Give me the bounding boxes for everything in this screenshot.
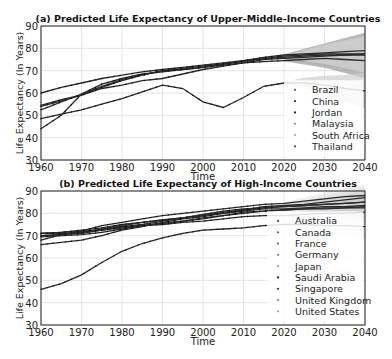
data-point	[113, 230, 114, 231]
data-point	[198, 221, 199, 222]
data-point	[138, 225, 139, 226]
data-point	[144, 80, 145, 81]
legend-marker	[277, 231, 279, 233]
x-tick-label: 1970	[69, 327, 94, 338]
data-point	[46, 238, 47, 239]
data-point	[83, 232, 84, 233]
data-point	[138, 76, 139, 77]
legend-label: Saudi Arabia	[295, 272, 355, 283]
legend-label: United Kingdom	[295, 295, 371, 306]
data-point	[162, 78, 163, 79]
data-point	[210, 65, 211, 66]
data-point	[186, 220, 187, 221]
data-point	[198, 219, 199, 220]
data-point	[174, 220, 175, 221]
data-point	[119, 85, 120, 86]
data-point	[241, 98, 242, 99]
data-point	[138, 244, 139, 245]
data-point	[235, 217, 236, 218]
data-point	[46, 232, 47, 233]
data-point	[59, 114, 60, 115]
data-point	[46, 287, 47, 288]
data-point	[235, 228, 236, 229]
data-point	[229, 228, 230, 229]
data-point	[131, 95, 132, 96]
data-point	[192, 95, 193, 96]
data-point	[204, 216, 205, 217]
data-point	[235, 101, 236, 102]
data-point	[241, 216, 242, 217]
data-point	[119, 226, 120, 227]
data-point	[271, 61, 272, 62]
data-point	[156, 70, 157, 71]
legend-label: Australia	[295, 215, 337, 226]
data-point	[229, 63, 230, 64]
data-point	[138, 72, 139, 73]
data-point	[277, 56, 278, 57]
data-point	[180, 68, 181, 69]
data-point	[52, 104, 53, 105]
data-point	[83, 239, 84, 240]
data-point	[65, 113, 66, 114]
data-point	[119, 252, 120, 253]
data-point	[253, 211, 254, 212]
legend-marker	[277, 242, 279, 244]
data-point	[144, 221, 145, 222]
data-point	[223, 228, 224, 229]
data-point	[107, 85, 108, 86]
data-point	[101, 103, 102, 104]
data-point	[247, 60, 248, 61]
data-point	[89, 269, 90, 270]
legend-marker	[277, 310, 279, 312]
data-point	[192, 67, 193, 68]
data-point	[180, 222, 181, 223]
data-point	[131, 247, 132, 248]
data-point	[59, 102, 60, 103]
data-point	[198, 99, 199, 100]
data-point	[144, 225, 145, 226]
legend-label: South Africa	[312, 130, 370, 141]
data-point	[162, 215, 163, 216]
data-point	[168, 69, 169, 70]
data-point	[150, 73, 151, 74]
data-point	[186, 212, 187, 213]
data-point	[77, 98, 78, 99]
data-point	[156, 239, 157, 240]
data-point	[150, 224, 151, 225]
y-tick-label: 70	[25, 66, 38, 77]
data-point	[131, 73, 132, 74]
data-point	[241, 206, 242, 207]
legend-label: Brazil	[312, 84, 339, 95]
data-point	[241, 61, 242, 62]
data-point	[46, 117, 47, 118]
legend-marker	[277, 220, 279, 222]
legend-marker	[294, 89, 296, 91]
data-point	[150, 70, 151, 71]
data-point	[265, 215, 266, 216]
data-point	[210, 217, 211, 218]
data-point	[71, 231, 72, 232]
data-point	[131, 225, 132, 226]
data-point	[180, 233, 181, 234]
x-tick-label: 2010	[231, 162, 256, 173]
data-point	[131, 77, 132, 78]
data-point	[210, 215, 211, 216]
data-point	[125, 84, 126, 85]
data-point	[52, 232, 53, 233]
data-point	[83, 94, 84, 95]
chart-svg: 1960197019801990200020102020203020403040…	[0, 0, 392, 359]
chart-title: (a) Predicted Life Expectancy of Upper-M…	[36, 13, 381, 24]
data-point	[265, 206, 266, 207]
data-point	[156, 216, 157, 217]
legend-label: Singapore	[295, 283, 343, 294]
data-point	[253, 205, 254, 206]
data-point	[119, 224, 120, 225]
legend: AustraliaCanadaFranceGermanyJapanSaudi A…	[267, 211, 371, 321]
legend-label: Canada	[295, 227, 331, 238]
data-point	[89, 233, 90, 234]
data-point	[131, 223, 132, 224]
data-point	[77, 96, 78, 97]
data-point	[150, 221, 151, 222]
legend-marker	[277, 276, 279, 278]
data-point	[107, 87, 108, 88]
